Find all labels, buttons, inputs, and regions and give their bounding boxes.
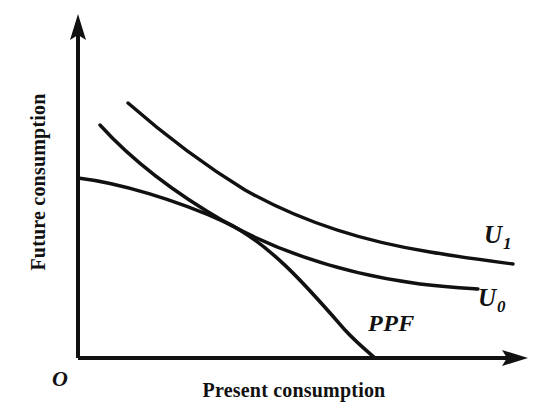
curve-label-u0: U0 bbox=[478, 284, 506, 316]
diagram-canvas: U1 U0 PPF O Present consumption Future c… bbox=[0, 0, 542, 415]
indifference-curve-u0 bbox=[100, 125, 478, 289]
curve-label-u1: U1 bbox=[484, 221, 512, 253]
x-axis-title: Present consumption bbox=[203, 379, 386, 402]
y-axis-title: Future consumption bbox=[27, 93, 50, 270]
origin-label: O bbox=[52, 366, 68, 391]
indifference-curve-u1 bbox=[128, 103, 513, 264]
curve-label-ppf: PPF bbox=[367, 310, 415, 336]
production-possibility-frontier bbox=[78, 178, 375, 358]
economics-diagram-figure: U1 U0 PPF O Present consumption Future c… bbox=[0, 0, 542, 415]
